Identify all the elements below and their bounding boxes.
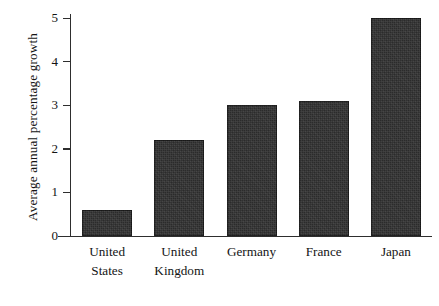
bar-france (299, 101, 349, 236)
x-axis-label-united-states: United States (71, 243, 143, 280)
bars-layer (0, 0, 439, 236)
x-axis-label-germany: Germany (215, 243, 287, 262)
bar-germany (227, 105, 277, 236)
x-axis-label-united-kingdom: United Kingdom (143, 243, 215, 280)
x-axis-label-france: France (288, 243, 360, 262)
bar-chart-figure: Average annual percentage growth 543210 … (0, 0, 439, 306)
x-axis-line (58, 236, 432, 237)
x-axis-tick-labels: United StatesUnited KingdomGermanyFrance… (0, 243, 439, 303)
bar-united-states (82, 210, 132, 236)
bar-japan (371, 18, 421, 236)
bar-united-kingdom (154, 140, 204, 236)
x-axis-label-japan: Japan (360, 243, 432, 262)
